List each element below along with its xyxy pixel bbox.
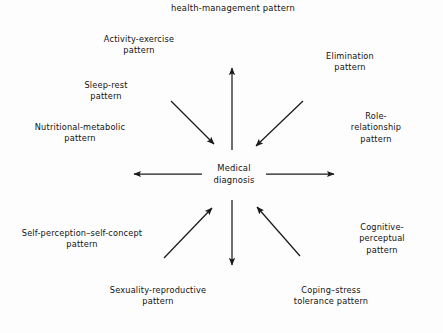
arrow-upper-right: [256, 101, 303, 146]
node-label-cognitive-perceptual: Cognitive-perceptual pattern: [352, 222, 413, 256]
node-label-nutritional-metabolic: Nutritional-metabolic pattern: [35, 122, 125, 145]
diagram-title: health-management pattern: [171, 3, 295, 14]
node-label-elimination: Elimination pattern: [326, 51, 374, 74]
node-label-sexuality-reproductive: Sexuality-reproductive pattern: [110, 285, 206, 308]
arrow-upper-left: [171, 101, 214, 144]
arrow-lower-left: [164, 208, 212, 258]
node-label-coping-stress-tolerance: Coping–stress tolerance pattern: [294, 285, 368, 308]
node-label-role-relationship: Role-relationship pattern: [343, 111, 410, 145]
functional-health-patterns-diagram: health-management pattern Medical diagno…: [0, 0, 443, 333]
node-label-self-perception-self-concept: Self-perception–self-concept pattern: [22, 228, 142, 251]
node-label-activity-exercise: Activity-exercise pattern: [104, 34, 174, 57]
center-node-medical-diagnosis: Medical diagnosis: [213, 163, 254, 186]
arrow-lower-right: [257, 207, 300, 256]
node-label-sleep-rest: Sleep-rest pattern: [84, 80, 127, 103]
